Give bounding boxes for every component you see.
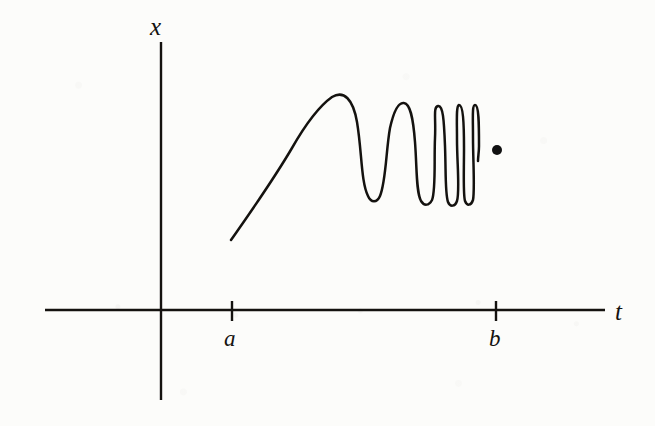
figure-canvas: x t a b (0, 0, 655, 426)
limit-point-dot (492, 145, 502, 155)
axis-label-x: x (150, 14, 161, 39)
tick-label-a: a (224, 327, 236, 350)
solution-trajectory-curve (231, 95, 479, 240)
tick-label-b: b (489, 327, 501, 350)
plot-svg (0, 0, 655, 426)
axis-label-t: t (615, 299, 622, 324)
